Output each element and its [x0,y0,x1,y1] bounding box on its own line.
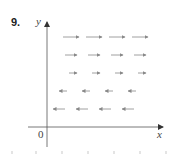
vector-arrows [53,37,148,109]
bottom-ticks [12,151,166,154]
vector-field-plot [0,0,175,155]
